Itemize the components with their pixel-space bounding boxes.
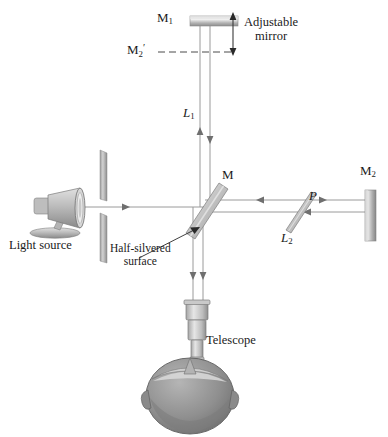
fixed-mirror-m2 <box>365 190 376 241</box>
label-l2-subscript: 2 <box>288 236 292 246</box>
label-fixed-mirror-m2: M2 <box>360 164 376 180</box>
label-beam-splitter-m: M <box>222 168 234 183</box>
label-m2-subscript: 2 <box>372 169 376 179</box>
observer-head <box>141 358 239 434</box>
label-telescope: Telescope <box>206 333 256 347</box>
label-m1-subscript: 1 <box>169 16 173 26</box>
label-m2-letter: M <box>360 163 372 178</box>
label-arm-length-l1: L1 <box>183 106 195 122</box>
beam-vertical-arm-l1 <box>197 26 214 207</box>
label-adjustable-line1: Adjustable <box>244 15 298 29</box>
label-p-letter: P <box>309 188 317 203</box>
label-halfsilvered-line1: Half-silvered <box>110 242 171 255</box>
michelson-interferometer-figure: M1 M2′ Adjustable mirror L1 M M2 P L2 Li… <box>0 0 388 437</box>
label-half-silvered-surface: Half-silvered surface <box>110 242 171 268</box>
label-beamsplitter-letter: M <box>222 167 234 182</box>
label-compensator-p: P <box>309 189 317 204</box>
label-halfsilvered-line2: surface <box>110 255 171 268</box>
label-m1-letter: M <box>157 10 169 25</box>
label-m2prime-prime: ′ <box>143 42 145 53</box>
adjustable-range-arrow <box>230 12 237 56</box>
light-source-lamp <box>30 188 85 238</box>
label-light-source: Light source <box>9 238 72 252</box>
label-virtual-mirror-m2-prime: M2′ <box>127 42 145 59</box>
label-m2prime-letter: M <box>127 42 139 57</box>
diagram-canvas <box>0 0 388 437</box>
beam-horizontal-arm-l2 <box>205 196 366 215</box>
telescope <box>184 300 210 362</box>
beam-source-to-splitter <box>85 203 210 210</box>
label-arm-length-l2: L2 <box>281 231 293 247</box>
label-adjustable-mirror-m1: M1 <box>157 11 173 27</box>
label-l1-subscript: 1 <box>190 111 194 121</box>
label-adjustable-mirror-caption: Adjustable mirror <box>244 15 298 44</box>
label-adjustable-line2: mirror <box>244 29 298 43</box>
